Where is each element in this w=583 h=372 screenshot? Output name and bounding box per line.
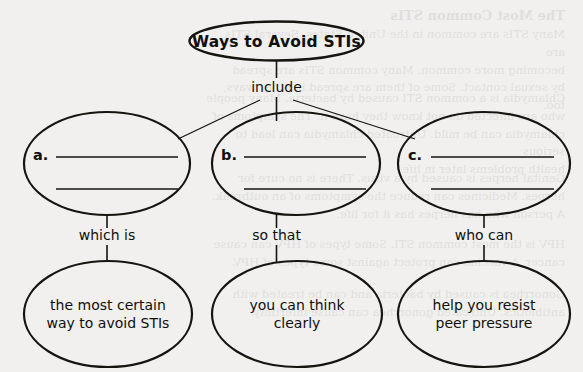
node-outcome-a-line-1: the most certain bbox=[50, 297, 166, 313]
node-outcome-b-line-1: you can think bbox=[249, 297, 345, 313]
node-branch-b-ellipse bbox=[212, 112, 380, 215]
node-outcome-c-ellipse bbox=[398, 261, 570, 367]
node-title: Ways to Avoid STIs bbox=[190, 22, 364, 61]
node-outcome-a-line-2: way to avoid STIs bbox=[47, 315, 170, 331]
node-branch-c-ellipse bbox=[398, 112, 570, 215]
node-outcome-a: the most certain way to avoid STIs bbox=[24, 261, 192, 367]
connector-include-to-node-a bbox=[178, 100, 260, 139]
node-outcome-c: help you resist peer pressure bbox=[398, 261, 570, 367]
link-label-which-is: which is bbox=[79, 227, 135, 243]
node-branch-a-letter: a. bbox=[33, 147, 48, 163]
node-branch-a-ellipse bbox=[24, 112, 190, 215]
link-label-so-that: so that bbox=[252, 227, 301, 243]
node-outcome-b-line-2: clearly bbox=[274, 315, 321, 331]
node-outcome-b: you can think clearly bbox=[212, 261, 382, 367]
concept-map-diagram: The Most Common STIs Many STIs are commo… bbox=[0, 0, 583, 372]
node-outcome-a-ellipse bbox=[24, 261, 192, 367]
diagram-canvas: Ways to Avoid STIs include a. b. c. whic… bbox=[0, 0, 583, 372]
node-title-label: Ways to Avoid STIs bbox=[192, 33, 361, 51]
node-branch-a: a. bbox=[24, 112, 190, 215]
node-branch-b-letter: b. bbox=[221, 147, 237, 163]
node-outcome-c-line-2: peer pressure bbox=[436, 315, 533, 331]
node-branch-b: b. bbox=[212, 112, 380, 215]
link-label-include: include bbox=[251, 79, 302, 95]
node-branch-c: c. bbox=[398, 112, 570, 215]
connector-include-to-node-c bbox=[293, 100, 415, 139]
node-outcome-c-line-1: help you resist bbox=[433, 297, 536, 313]
node-outcome-b-ellipse bbox=[212, 261, 382, 367]
node-branch-c-letter: c. bbox=[408, 147, 422, 163]
link-label-who-can: who can bbox=[455, 227, 514, 243]
